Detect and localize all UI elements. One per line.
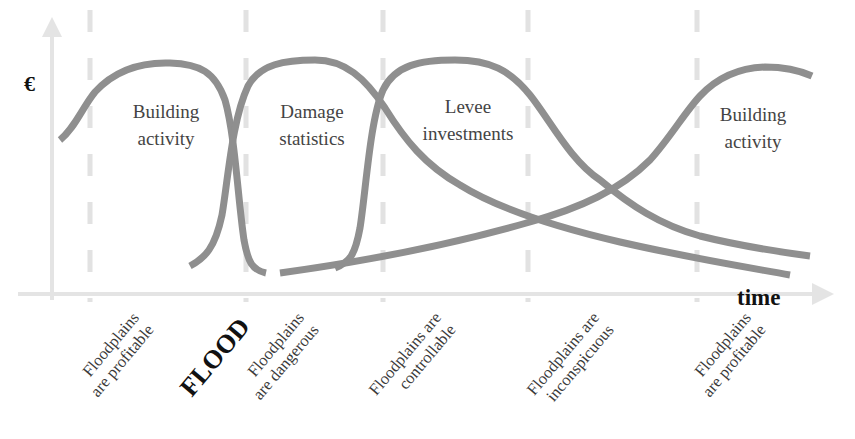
phase-label-dangerous: Floodplains are dangerous: [234, 308, 322, 403]
curve-levee-investments: [335, 60, 810, 268]
x-axis-label: time: [737, 285, 780, 310]
phase-label-inconspicuous: Floodplains are inconspicuous: [523, 308, 618, 411]
label-damage-line2: statistics: [279, 128, 344, 149]
phase-label-controllable: Floodplains are controllable: [365, 308, 460, 411]
phase-label-profitable-2: Floodplains are profitable: [684, 308, 770, 400]
y-axis-arrow-icon: [42, 17, 62, 37]
label-levee-line2: investments: [423, 123, 514, 144]
label-building-1-line2: activity: [138, 128, 195, 149]
y-axis-label: €: [24, 71, 35, 96]
flood-cycle-diagram: € time Building activity Damage statisti…: [0, 0, 855, 439]
label-building-1-line1: Building: [133, 101, 200, 122]
phase-separators: [90, 10, 697, 302]
x-axis-arrow-icon: [812, 283, 834, 305]
label-levee-line1: Levee: [445, 96, 491, 117]
phase-label-flood: FLOOD: [174, 312, 256, 401]
label-damage-line1: Damage: [280, 101, 343, 122]
svg-text:FLOOD: FLOOD: [174, 312, 256, 401]
phase-label-profitable-1: Floodplains are profitable: [72, 308, 158, 400]
label-building-2-line2: activity: [725, 131, 782, 152]
x-phase-labels: Floodplains are profitable FLOOD Floodpl…: [72, 308, 770, 411]
label-building-2-line1: Building: [720, 104, 787, 125]
